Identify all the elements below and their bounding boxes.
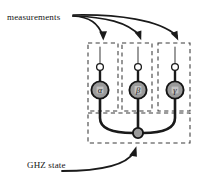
- ghz-state-label: GHZ state: [27, 160, 66, 170]
- ghz-measurement-figure: α β γ measurements GHZ state: [0, 0, 203, 184]
- diagram-canvas: α β γ: [0, 0, 203, 184]
- measurement-arrows-group: [73, 15, 178, 41]
- ghz-arrow-group: [62, 146, 137, 171]
- measurements-label: measurements: [7, 12, 60, 22]
- arrow-to-alpha: [73, 16, 103, 36]
- qubit-wires-group: [100, 47, 175, 64]
- node-alpha-symbol: α: [98, 85, 103, 95]
- arrow-to-alpha-head: [99, 31, 107, 40]
- node-beta-symbol: β: [135, 85, 141, 95]
- open-circle-gamma: [172, 64, 179, 71]
- open-circle-alpha: [97, 64, 104, 71]
- arrow-to-ghz: [62, 152, 134, 171]
- open-circles-group: [97, 64, 179, 71]
- operator-nodes-group: α β γ: [91, 81, 183, 98]
- ghz-center-node: [133, 128, 143, 138]
- arrow-to-ghz-head: [129, 146, 137, 157]
- open-circle-beta: [135, 64, 142, 71]
- box-alpha: [88, 43, 118, 111]
